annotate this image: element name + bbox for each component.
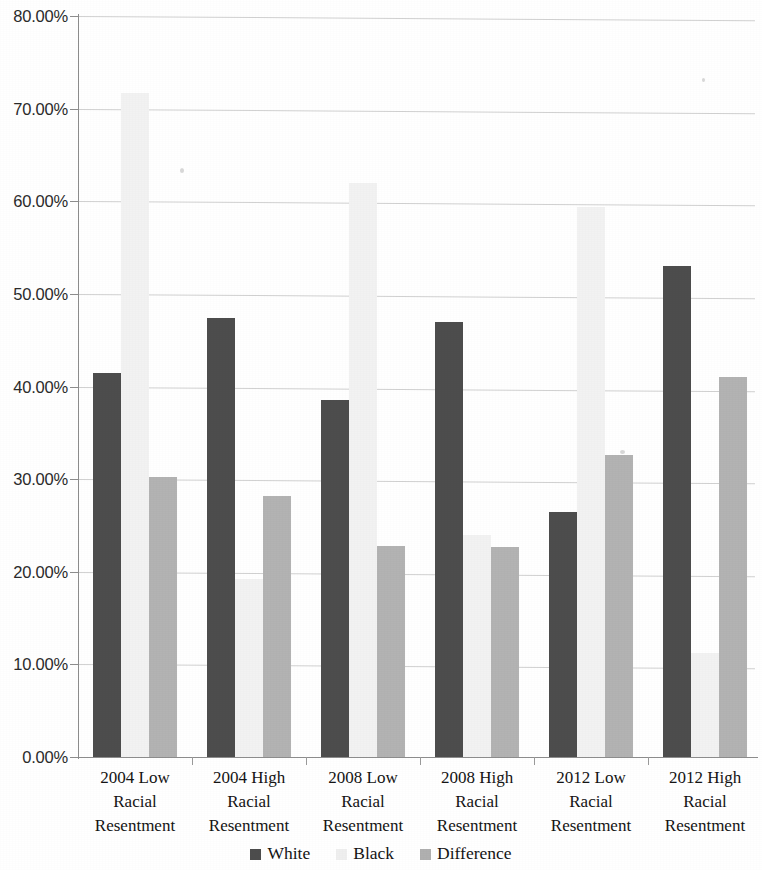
legend-label: White (267, 843, 310, 864)
bar-groups (78, 0, 762, 757)
x-axis-category-label-line: Resentment (306, 814, 420, 838)
y-axis-tick-label: 50.00% (13, 284, 68, 303)
x-axis-line (70, 757, 758, 758)
y-axis-tick-label: 60.00% (13, 192, 68, 211)
legend-item-black[interactable]: Black (336, 843, 394, 864)
x-axis-category-label-line: 2012 High (648, 766, 762, 790)
legend-swatch-icon (250, 849, 261, 860)
bar-group (192, 0, 306, 757)
y-axis-tickmark (70, 757, 79, 758)
bar-black-3[interactable] (463, 535, 491, 757)
x-axis-category-tick (420, 757, 421, 765)
bar-black-2[interactable] (349, 183, 377, 757)
x-axis-category-label-line: Racial (648, 790, 762, 814)
legend-item-white[interactable]: White (250, 843, 310, 864)
legend-label: Difference (437, 843, 512, 864)
bar-difference-4[interactable] (605, 455, 633, 757)
bar-black-5[interactable] (691, 653, 719, 757)
bar-difference-5[interactable] (719, 377, 747, 757)
bar-white-1[interactable] (207, 318, 235, 757)
y-axis-tick-label: 30.00% (13, 470, 68, 489)
x-axis-category-label: 2004 LowRacialResentment (78, 766, 192, 842)
x-axis-category-label-line: Resentment (648, 814, 762, 838)
x-axis-category-label-line: 2012 Low (534, 766, 648, 790)
bar-black-4[interactable] (577, 207, 605, 757)
bar-black-1[interactable] (235, 579, 263, 757)
chart-legend: WhiteBlackDifference (0, 843, 762, 864)
bar-difference-2[interactable] (377, 546, 405, 757)
x-axis-category-label-line: Resentment (192, 814, 306, 838)
legend-item-difference[interactable]: Difference (420, 843, 512, 864)
bar-white-3[interactable] (435, 322, 463, 757)
x-axis-category-labels: 2004 LowRacialResentment2004 HighRacialR… (78, 766, 762, 842)
x-axis-category-tick (648, 757, 649, 765)
x-axis-category-label-line: Racial (306, 790, 420, 814)
y-axis-tick-label: 20.00% (13, 562, 68, 581)
bar-difference-1[interactable] (263, 496, 291, 757)
bar-group (648, 0, 762, 757)
x-axis-category-label-line: 2008 High (420, 766, 534, 790)
bar-group (534, 0, 648, 757)
bar-group (420, 0, 534, 757)
y-axis-tick-label: 70.00% (13, 99, 68, 118)
y-axis-tick-label: 40.00% (13, 377, 68, 396)
x-axis-category-label-line: Resentment (534, 814, 648, 838)
bar-difference-3[interactable] (491, 547, 519, 757)
x-axis-category-label-line: Resentment (78, 814, 192, 838)
bar-group (306, 0, 420, 757)
legend-swatch-icon (420, 849, 431, 860)
x-axis-category-tick (534, 757, 535, 765)
y-axis-tick-label: 80.00% (13, 7, 68, 26)
bar-black-0[interactable] (121, 93, 149, 757)
bar-white-0[interactable] (93, 373, 121, 757)
x-axis-category-label-line: 2004 High (192, 766, 306, 790)
x-axis-category-label-line: Racial (534, 790, 648, 814)
y-axis-tick-label: 0.00% (22, 748, 68, 767)
x-axis-category-label-line: 2004 Low (78, 766, 192, 790)
bar-white-5[interactable] (663, 266, 691, 757)
x-axis-category-label-line: Resentment (420, 814, 534, 838)
x-axis-category-label-line: Racial (420, 790, 534, 814)
x-axis-category-label: 2012 LowRacialResentment (534, 766, 648, 842)
bar-group (78, 0, 192, 757)
bar-white-4[interactable] (549, 512, 577, 757)
legend-label: Black (353, 843, 394, 864)
x-axis-category-label-line: 2008 Low (306, 766, 420, 790)
y-axis-tick-label: 10.00% (13, 655, 68, 674)
x-axis-category-label: 2012 HighRacialResentment (648, 766, 762, 842)
x-axis-category-label: 2008 HighRacialResentment (420, 766, 534, 842)
x-axis-category-tick (192, 757, 193, 765)
bar-white-2[interactable] (321, 400, 349, 757)
x-axis-category-label-line: Racial (78, 790, 192, 814)
x-axis-category-label-line: Racial (192, 790, 306, 814)
x-axis-category-label: 2008 LowRacialResentment (306, 766, 420, 842)
y-axis-tick-labels: 0.00%10.00%20.00%30.00%40.00%50.00%60.00… (0, 0, 72, 770)
x-axis-category-tick (306, 757, 307, 765)
bar-difference-0[interactable] (149, 477, 177, 757)
legend-swatch-icon (336, 849, 347, 860)
bar-chart: 0.00%10.00%20.00%30.00%40.00%50.00%60.00… (0, 0, 762, 870)
x-axis-category-label: 2004 HighRacialResentment (192, 766, 306, 842)
